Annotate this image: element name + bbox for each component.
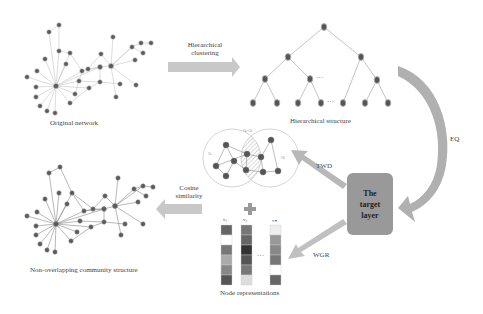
target-layer-line1: The — [360, 188, 380, 199]
vector-v1 — [221, 225, 232, 285]
hierarchical-clustering-line1: Hierarchical — [180, 41, 230, 49]
node-representations-label: Node representations — [220, 289, 279, 297]
cosine-line2: similarity — [172, 192, 206, 200]
hierarchical-structure-label: Hierarchical structure — [290, 117, 351, 125]
hierarchical-clustering-label: Hierarchical clustering — [180, 41, 230, 57]
plus-icon — [244, 203, 256, 215]
target-layer-line2: target — [360, 199, 380, 210]
tree-ellipsis-2: ··· — [327, 98, 334, 106]
twd-label: TWD — [316, 162, 332, 170]
circle-left-label: Ca — [208, 152, 211, 156]
tree-ellipsis-1: ··· — [316, 74, 323, 82]
v1-label: v₁ — [223, 217, 227, 222]
cosine-similarity-label: Cosine similarity — [172, 184, 206, 200]
eq-arrow — [398, 66, 447, 222]
target-layer-line3: layer — [360, 210, 380, 221]
cosine-line1: Cosine — [172, 184, 206, 192]
community-network — [25, 165, 155, 254]
vector-v2 — [241, 225, 252, 285]
vector-ellipsis: ··· — [257, 252, 264, 260]
circle-top-label: Ca∩Cb — [243, 129, 252, 133]
hierarchical-clustering-line2: clustering — [180, 49, 230, 57]
target-layer-box: The target layer — [347, 173, 393, 235]
hierarchical-tree — [250, 24, 391, 107]
wgr-label: WGR — [313, 251, 329, 259]
circle-right-label: Cb — [281, 156, 285, 160]
v2-label: v₂ — [243, 217, 247, 222]
eq-label: EQ — [450, 135, 459, 143]
cosine-arrow — [156, 199, 202, 219]
original-network-label: Original network — [50, 119, 98, 127]
vector-vn — [270, 225, 281, 285]
hierarchical-clustering-arrow — [168, 57, 240, 77]
vn-label: vₙ — [272, 217, 277, 223]
non-overlapping-label: Non-overlapping community structure — [30, 266, 138, 274]
original-network — [25, 23, 154, 116]
